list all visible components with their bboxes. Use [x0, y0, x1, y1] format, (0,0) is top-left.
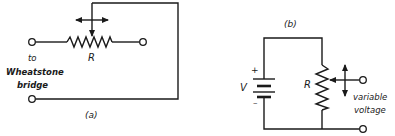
figure-b-caption: (b) — [284, 19, 297, 29]
figure-a: R to Wheatstone bridge (a) — [6, 3, 178, 120]
terminal-a-left — [29, 39, 36, 46]
battery-minus-label: – — [253, 98, 258, 108]
bridge-label-line1: to — [28, 53, 37, 63]
battery-voltage-label: V — [240, 82, 248, 93]
figure-b: (b) + V – R variable voltage — [240, 19, 387, 132]
output-terminal-top — [360, 77, 367, 84]
resistor-b-label: R — [304, 79, 311, 90]
wire-a-loop — [36, 3, 179, 99]
terminal-a-right — [140, 39, 147, 46]
wire-b-top — [264, 38, 322, 79]
battery-icon — [253, 79, 275, 97]
bridge-label-line3: bridge — [17, 80, 48, 90]
output-terminal-bottom — [360, 126, 367, 133]
output-label-line1: variable — [353, 92, 387, 102]
battery-plus-label: + — [251, 65, 259, 75]
resistor-a-icon — [67, 37, 112, 47]
circuit-diagrams: R to Wheatstone bridge (a) (b) + V – R — [0, 0, 395, 136]
resistor-a-label: R — [88, 52, 95, 63]
bridge-label-line2: Wheatstone — [6, 67, 64, 77]
terminal-a-bottom — [29, 96, 36, 103]
output-label-line2: voltage — [354, 105, 386, 115]
resistor-b-icon — [316, 65, 328, 110]
wire-b-bottom — [264, 97, 360, 129]
figure-a-caption: (a) — [85, 110, 98, 120]
